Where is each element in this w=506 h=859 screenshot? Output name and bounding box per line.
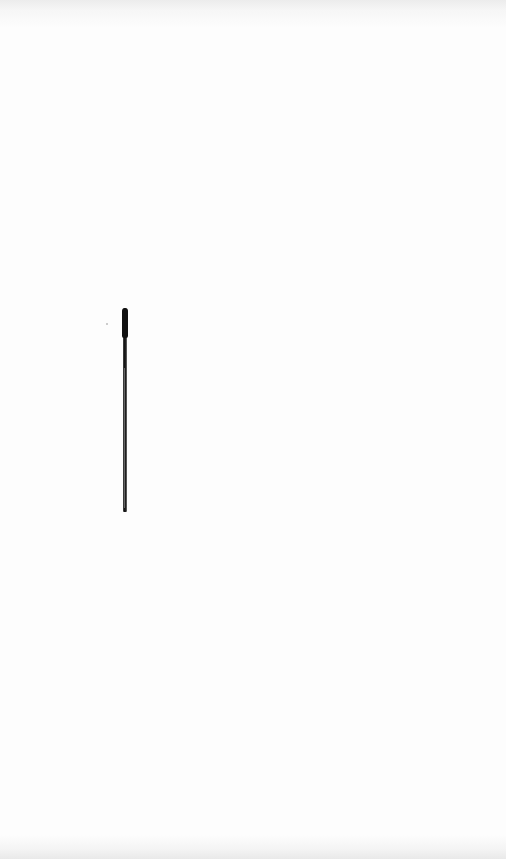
bottom-edge-shadow: [0, 835, 506, 859]
ink-speck: [106, 323, 108, 325]
scanned-page: [0, 0, 506, 859]
vertical-pen-stroke: [123, 308, 127, 512]
